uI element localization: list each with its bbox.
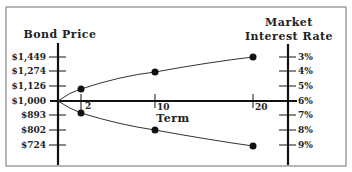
right-axis-title-line2: Interest Rate	[245, 30, 333, 43]
svg-text:$1,000: $1,000	[12, 96, 46, 107]
svg-text:3%: 3%	[298, 52, 313, 62]
term-tick-20: 20	[255, 102, 268, 112]
svg-text:4%: 4%	[298, 66, 313, 76]
svg-text:$1,126: $1,126	[12, 81, 46, 92]
bond-price-chart: Bond Price Market Interest Rate $1,449 $…	[0, 0, 352, 172]
term-tick-2: 2	[85, 101, 91, 111]
svg-text:$802: $802	[21, 125, 46, 135]
svg-text:$724: $724	[21, 140, 46, 150]
svg-text:5%: 5%	[298, 81, 313, 91]
term-tick-10: 10	[157, 102, 170, 112]
svg-text:8%: 8%	[298, 125, 313, 135]
right-axis-title-line1: Market	[265, 16, 313, 29]
svg-text:9%: 9%	[298, 140, 313, 150]
svg-text:$1,449: $1,449	[12, 52, 46, 63]
svg-text:6%: 6%	[298, 96, 313, 106]
svg-text:7%: 7%	[298, 110, 313, 120]
left-tick-labels: $1,449 $1,274 $1,126 $1,000 $893 $802 $7…	[12, 52, 46, 150]
svg-text:$1,274: $1,274	[12, 66, 46, 77]
left-axis-title: Bond Price	[23, 28, 96, 41]
term-axis-title: Term	[156, 112, 189, 125]
right-tick-labels: 3% 4% 5% 6% 7% 8% 9%	[298, 52, 313, 150]
svg-text:$893: $893	[21, 110, 46, 120]
